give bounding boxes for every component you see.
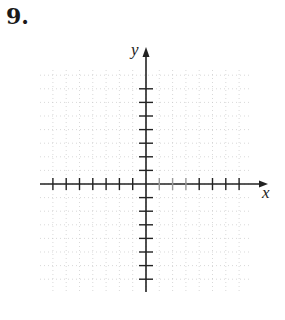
- coordinate-plane: x y: [0, 0, 285, 320]
- y-axis: [143, 47, 150, 292]
- y-axis-arrow-icon: [143, 47, 150, 57]
- x-axis: [40, 181, 268, 188]
- x-axis-label: x: [261, 183, 270, 202]
- y-axis-label: y: [129, 40, 139, 59]
